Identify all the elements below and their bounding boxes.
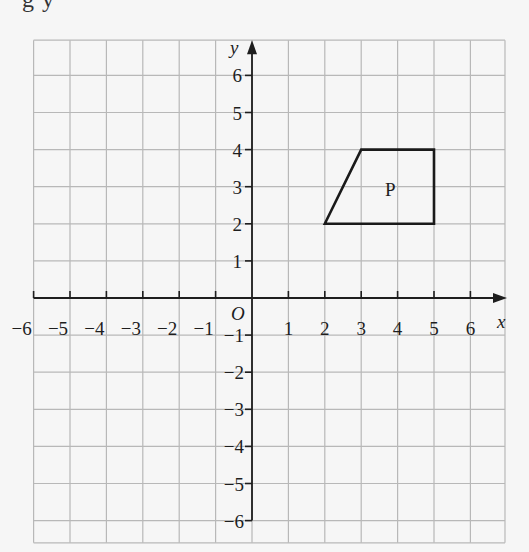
- x-tick-label: −2: [157, 318, 177, 339]
- shape-label-P: P: [385, 179, 396, 200]
- y-tick-label: 2: [233, 214, 243, 235]
- y-tick-label: −3: [224, 399, 244, 420]
- textbook-page: g y −6−5−4−3−2−1123456123456−1−2−3−4−5−6…: [0, 0, 529, 552]
- y-axis-label: y: [228, 37, 239, 58]
- x-tick-label: −1: [193, 318, 213, 339]
- origin-label: O: [231, 303, 245, 324]
- y-tick-label: −6: [224, 511, 244, 532]
- y-tick-label: 3: [233, 177, 243, 198]
- tick-labels: −6−5−4−3−2−1123456123456−1−2−3−4−5−6xyO: [11, 37, 505, 531]
- x-tick-label: 2: [320, 318, 330, 339]
- y-tick-label: −2: [224, 362, 244, 383]
- y-tick-label: −4: [224, 436, 245, 457]
- x-tick-label: 1: [284, 318, 294, 339]
- x-tick-label: 4: [393, 318, 403, 339]
- x-tick-label: −3: [121, 318, 141, 339]
- y-tick-label: 1: [233, 251, 243, 272]
- y-tick-label: 6: [233, 65, 243, 86]
- coordinate-grid-diagram: −6−5−4−3−2−1123456123456−1−2−3−4−5−6xyO …: [0, 0, 529, 552]
- x-tick-label: 5: [429, 318, 439, 339]
- x-tick-label: 6: [466, 318, 476, 339]
- x-axis-label: x: [496, 311, 506, 332]
- y-axis-arrow-icon: [247, 40, 257, 54]
- y-tick-label: 5: [233, 103, 243, 124]
- y-tick-label: 4: [233, 140, 243, 161]
- x-tick-label: −5: [48, 318, 68, 339]
- y-tick-label: −1: [224, 325, 244, 346]
- x-tick-label: −4: [84, 318, 105, 339]
- x-tick-label: 3: [356, 318, 366, 339]
- y-tick-label: −5: [224, 474, 244, 495]
- x-tick-label: −6: [11, 318, 31, 339]
